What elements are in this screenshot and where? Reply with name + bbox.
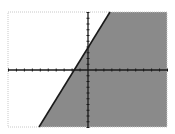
inequality-graph <box>0 0 175 134</box>
